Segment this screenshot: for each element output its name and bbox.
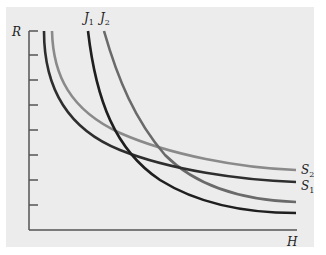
curve-s2 bbox=[52, 31, 296, 170]
label-s2: S2 bbox=[301, 163, 314, 179]
curve-j1 bbox=[88, 31, 296, 213]
label-j1: J1 bbox=[81, 11, 94, 27]
y-ticks bbox=[29, 31, 38, 205]
y-axis-label: R bbox=[11, 25, 21, 39]
label-j2: J2 bbox=[97, 11, 110, 27]
label-s1: S1 bbox=[301, 179, 314, 195]
curve-j2 bbox=[104, 31, 296, 202]
chart-svg: R H J1 J2 S2 S1 bbox=[0, 0, 326, 255]
x-axis-label: H bbox=[286, 235, 298, 249]
figure: R H J1 J2 S2 S1 bbox=[0, 0, 326, 255]
